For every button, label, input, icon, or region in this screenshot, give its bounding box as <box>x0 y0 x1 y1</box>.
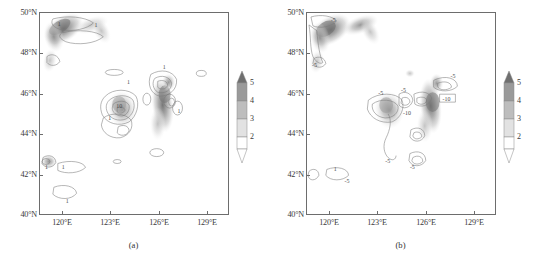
panel-a: 1 1 1 10 1 1 1 1 1 1 50°N 48°N 46°N 44°N… <box>0 0 267 264</box>
x-tick-label-a-120e: 120°E <box>39 218 85 227</box>
y-tick-label-b-50n: 50°N <box>266 8 304 17</box>
colorbar-a-tick-4: 4 <box>250 97 254 105</box>
x-tickmark-b-123e <box>377 211 378 215</box>
panel-b: -5 -5 -5 -5 -10 -5 -5 -10 -5 1 -5 50°N 4… <box>267 0 534 264</box>
x-tick-label-a-126e: 126°E <box>136 218 182 227</box>
y-tick-label-b-42n: 42°N <box>266 170 304 179</box>
svg-text:-5: -5 <box>345 178 350 184</box>
svg-text:1: 1 <box>127 79 130 85</box>
y-tick-label-a-42n: 42°N <box>0 170 37 179</box>
svg-text:1: 1 <box>58 21 61 27</box>
y-tick-label-b-46n: 46°N <box>266 89 304 98</box>
svg-text:-10: -10 <box>403 110 411 116</box>
colorbar-b-tick-3: 3 <box>517 115 521 123</box>
plot-area-a: 1 1 1 10 1 1 1 1 1 1 <box>39 12 229 215</box>
panel-caption-a: (a) <box>0 240 267 250</box>
y-tick-label-a-46n: 46°N <box>0 89 37 98</box>
y-tickmark-b-48n <box>306 53 310 54</box>
x-tick-label-b-129e: 129°E <box>451 218 497 227</box>
y-tickmark-a-44n <box>39 134 43 135</box>
y-tickmark-a-48n <box>39 53 43 54</box>
x-tickmark-b-120e <box>329 211 330 215</box>
plot-area-b: -5 -5 -5 -5 -10 -5 -5 -10 -5 1 -5 <box>306 12 496 215</box>
y-tick-label-a-50n: 50°N <box>0 8 37 17</box>
svg-text:-5: -5 <box>331 17 336 23</box>
colorbar-a-ticks: 5 4 3 2 <box>250 71 266 163</box>
colorbar-b-ticks: 5 4 3 2 <box>517 71 533 163</box>
colorbar-a-tick-5: 5 <box>250 79 254 87</box>
svg-text:1: 1 <box>66 198 69 204</box>
svg-text:1: 1 <box>62 164 65 170</box>
colorbar-b-tick-5: 5 <box>517 79 521 87</box>
x-tick-label-b-120e: 120°E <box>306 218 352 227</box>
x-tick-label-a-129e: 129°E <box>184 218 230 227</box>
y-tick-label-b-44n: 44°N <box>266 129 304 138</box>
x-tick-label-b-126e: 126°E <box>403 218 449 227</box>
colorbar-b-swatches <box>503 71 515 163</box>
svg-text:1: 1 <box>108 115 111 121</box>
y-tick-label-a-40n: 40°N <box>0 210 37 219</box>
svg-text:1: 1 <box>334 166 337 172</box>
svg-text:-5: -5 <box>312 62 317 68</box>
colorbar-b-tick-4: 4 <box>517 97 521 105</box>
x-tickmark-b-129e <box>474 211 475 215</box>
colorbar-a-tick-3: 3 <box>250 115 254 123</box>
x-tickmark-a-123e <box>110 211 111 215</box>
colorbar-a-tick-2: 2 <box>250 133 254 141</box>
x-tickmark-b-126e <box>426 211 427 215</box>
svg-text:1: 1 <box>45 164 48 170</box>
y-tickmark-a-42n <box>39 175 43 176</box>
y-tickmark-a-46n <box>39 94 43 95</box>
x-tickmark-a-126e <box>159 211 160 215</box>
svg-text:1: 1 <box>94 22 97 28</box>
map-plot-b: -5 -5 -5 -5 -10 -5 -5 -10 -5 1 -5 <box>307 13 495 214</box>
svg-text:-5: -5 <box>378 90 383 96</box>
y-tick-label-b-48n: 48°N <box>266 48 304 57</box>
x-tick-label-b-123e: 123°E <box>354 218 400 227</box>
colorbar-a-swatches <box>236 71 248 163</box>
svg-text:-5: -5 <box>450 73 455 79</box>
colorbar-b <box>503 71 515 163</box>
y-tickmark-b-42n <box>306 175 310 176</box>
map-plot-a: 1 1 1 10 1 1 1 1 1 1 <box>40 13 228 214</box>
svg-text:-5: -5 <box>401 87 406 93</box>
x-tick-label-a-123e: 123°E <box>87 218 133 227</box>
figure-container: 1 1 1 10 1 1 1 1 1 1 50°N 48°N 46°N 44°N… <box>0 0 535 264</box>
y-tick-label-b-40n: 40°N <box>266 210 304 219</box>
x-tickmark-a-129e <box>207 211 208 215</box>
x-tickmark-a-120e <box>62 211 63 215</box>
y-tick-label-a-44n: 44°N <box>0 129 37 138</box>
svg-text:-10: -10 <box>443 96 451 102</box>
y-tickmark-b-46n <box>306 94 310 95</box>
colorbar-a <box>236 71 248 163</box>
svg-text:1: 1 <box>178 108 181 114</box>
svg-text:-5: -5 <box>410 164 415 170</box>
svg-text:10: 10 <box>116 103 122 109</box>
y-tick-label-a-48n: 48°N <box>0 48 37 57</box>
colorbar-b-tick-2: 2 <box>517 133 521 141</box>
svg-text:1: 1 <box>163 64 166 70</box>
svg-text:-5: -5 <box>385 158 390 164</box>
y-tickmark-b-44n <box>306 134 310 135</box>
panel-caption-b: (b) <box>267 240 534 250</box>
